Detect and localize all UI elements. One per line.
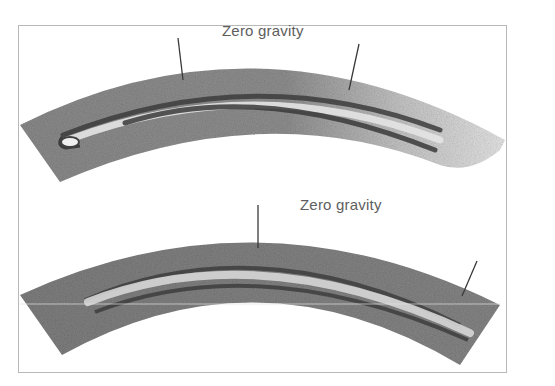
top-zero-gravity-label: Zero gravity [222, 22, 304, 39]
bottom-zero-gravity-label: Zero gravity [300, 196, 382, 213]
figure-image [0, 0, 555, 386]
